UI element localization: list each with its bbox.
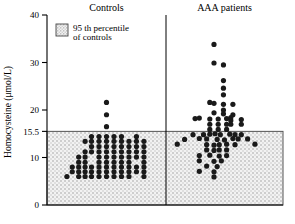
data-point [104,112,109,117]
data-point [83,154,88,159]
data-point [104,160,109,165]
data-point [96,139,101,144]
data-point [126,154,131,159]
data-point [141,174,146,179]
data-point [230,102,235,107]
data-point [96,160,101,165]
data-point [216,127,221,132]
data-point [96,164,101,169]
legend-label-line2: of controls [73,32,112,42]
data-point [134,154,139,159]
data-point [207,132,212,137]
data-point [111,144,116,149]
data-point [83,164,88,169]
scatter-plot-figure: 01015.5203040 Controls AAA patients Homo… [0,0,295,224]
percentile-band [47,131,283,205]
plot-canvas: 01015.5203040 Controls AAA patients Homo… [0,0,295,224]
data-point [221,62,226,67]
data-point [218,132,223,137]
data-point [215,164,220,169]
data-point [224,147,229,152]
data-point [89,169,94,174]
data-point [119,160,124,165]
data-point [83,160,88,165]
data-point [111,169,116,174]
data-point [119,149,124,154]
data-point [141,164,146,169]
data-point [227,132,232,137]
data-point [221,111,226,116]
data-point [76,160,81,165]
data-point [111,164,116,169]
data-point [204,136,209,141]
data-point [221,78,226,83]
data-point [215,137,220,142]
data-point [104,134,109,139]
y-tick-label: 15.5 [23,127,39,137]
data-point [201,132,206,137]
data-point [197,136,202,141]
data-point [96,144,101,149]
data-point [111,139,116,144]
data-point [207,122,212,127]
data-point [245,136,250,141]
data-point [83,174,88,179]
data-point [126,139,131,144]
data-point [104,169,109,174]
data-point [83,149,88,154]
group-title-aaa: AAA patients [197,2,252,13]
data-point [76,174,81,179]
data-point [111,134,116,139]
data-point [175,142,180,147]
data-point [89,134,94,139]
data-point [212,131,217,136]
data-point [119,154,124,159]
data-point [119,169,124,174]
data-point [224,153,229,158]
data-point [70,164,75,169]
data-point [204,163,209,168]
y-tick-label: 30 [30,58,40,68]
data-point [207,127,212,132]
legend-swatch-icon [56,24,68,36]
data-point [217,153,222,158]
data-point [224,127,229,132]
data-point [104,149,109,154]
y-tick-label: 0 [35,200,40,210]
data-point [96,149,101,154]
data-point [141,144,146,149]
data-point [134,139,139,144]
data-point [211,143,216,148]
data-point [76,154,81,159]
data-point [239,122,244,127]
data-point [64,174,69,179]
data-point [119,164,124,169]
data-point [119,174,124,179]
data-point [141,154,146,159]
data-point [83,169,88,174]
data-point [141,169,146,174]
data-point [70,169,75,174]
data-point [197,153,202,158]
data-point [239,117,244,122]
data-point [204,147,209,152]
data-point [219,158,224,163]
data-point [197,158,202,163]
data-point [211,159,216,164]
data-point [126,144,131,149]
data-point [126,169,131,174]
data-point [96,174,101,179]
data-point [126,174,131,179]
data-point [211,148,216,153]
data-point [104,144,109,149]
data-point [119,144,124,149]
data-point [141,160,146,165]
y-axis-label: Homocysteine (μmol/L) [3,66,14,158]
data-point [217,142,222,147]
data-point [89,139,94,144]
data-point [211,101,216,106]
data-point [134,164,139,169]
data-point [211,110,216,115]
data-point [252,142,257,147]
data-point [96,134,101,139]
